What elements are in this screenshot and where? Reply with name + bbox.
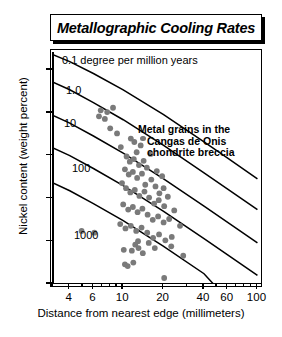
x-tick-label-20: 20 — [148, 291, 178, 303]
data-point — [141, 158, 147, 164]
data-point — [142, 182, 148, 188]
chart-title-box: Metallographic Cooling Rates — [50, 14, 262, 41]
x-minor-tick-5 — [81, 283, 82, 287]
data-point — [130, 204, 136, 210]
data-point — [148, 177, 154, 183]
data-point — [117, 221, 123, 227]
data-point — [140, 250, 146, 256]
data-point — [139, 225, 145, 231]
y-tick-25 — [46, 240, 53, 241]
curve-label-0.1: 0.1 degree per million years — [62, 55, 198, 66]
legend-sample-dot — [140, 136, 146, 142]
data-point — [150, 217, 156, 223]
data-point — [98, 107, 104, 113]
data-point — [177, 223, 183, 229]
data-point — [135, 209, 141, 215]
data-point — [142, 189, 148, 195]
data-point — [128, 223, 134, 229]
annotation-line-1: Metal grains in the — [138, 124, 235, 136]
x-minor-tick-8 — [109, 283, 110, 287]
curve-label-1: 1.0 — [66, 85, 81, 96]
data-point — [145, 212, 151, 218]
data-point — [134, 175, 140, 181]
curve-label-100: 100 — [72, 163, 90, 174]
data-point — [161, 220, 167, 226]
x-minor-tick-3 — [51, 283, 52, 287]
y-axis-line — [52, 52, 54, 284]
data-point — [123, 225, 129, 231]
x-minor-tick-90 — [250, 283, 251, 287]
data-point — [131, 156, 137, 162]
data-point — [125, 263, 131, 269]
data-point — [151, 201, 157, 207]
data-point — [146, 195, 152, 201]
data-point — [180, 253, 186, 259]
data-point — [162, 237, 168, 243]
data-point — [161, 275, 167, 281]
annotation-line-3: chondrite breccia — [138, 147, 235, 159]
data-point — [102, 116, 108, 122]
data-point — [166, 216, 172, 222]
data-point — [130, 169, 136, 175]
x-tick-20 — [162, 283, 163, 289]
data-point — [161, 203, 167, 209]
data-point — [136, 245, 142, 251]
x-tick-40 — [202, 283, 203, 289]
data-point — [168, 243, 174, 249]
data-point — [146, 240, 152, 246]
data-point — [107, 125, 113, 131]
data-point — [104, 109, 110, 115]
data-point — [132, 187, 138, 193]
curve-label-10: 10 — [64, 118, 76, 129]
data-point — [120, 202, 126, 208]
data-point — [169, 234, 175, 240]
x-minor-tick-30 — [186, 283, 187, 287]
x-tick-6 — [92, 283, 93, 289]
x-minor-tick-80 — [243, 283, 244, 287]
data-point — [154, 168, 160, 174]
data-point — [161, 185, 167, 191]
y-tick-45 — [46, 68, 53, 69]
x-tick-label-60: 60 — [212, 291, 242, 303]
x-tick-label-10: 10 — [107, 291, 137, 303]
data-point — [153, 184, 159, 190]
data-point — [144, 230, 150, 236]
x-minor-tick-70 — [235, 283, 236, 287]
data-point — [165, 194, 171, 200]
data-point — [156, 231, 162, 237]
x-axis-title: Distance from nearest edge (millimeters) — [0, 307, 282, 319]
data-point — [171, 208, 177, 214]
x-tick-label-100: 100 — [241, 291, 271, 303]
data-point — [156, 197, 162, 203]
data-point — [156, 190, 162, 196]
data-point — [136, 193, 142, 199]
x-tick-10 — [121, 283, 122, 289]
series-annotation: Metal grains in the Cangas de Onis chond… — [138, 124, 235, 159]
cooling-rate-curve-0.1 — [53, 55, 257, 179]
x-tick-label-6: 6 — [77, 291, 107, 303]
data-point — [118, 144, 124, 150]
data-point — [139, 206, 145, 212]
data-point — [123, 185, 129, 191]
data-point — [144, 165, 150, 171]
data-point — [139, 171, 145, 177]
page-title: Metallographic Cooling Rates — [57, 20, 255, 36]
x-minor-tick-9 — [115, 283, 116, 287]
data-point — [110, 105, 116, 111]
x-tick-100 — [256, 283, 257, 289]
y-tick-30 — [46, 197, 53, 198]
data-point — [122, 166, 128, 172]
data-point — [119, 180, 125, 186]
data-point — [152, 245, 158, 251]
y-tick-40 — [46, 111, 53, 112]
data-point — [155, 214, 161, 220]
x-minor-tick-7 — [101, 283, 102, 287]
x-tick-4 — [68, 283, 69, 289]
x-minor-tick-50 — [215, 283, 216, 287]
x-axis-line — [52, 283, 262, 285]
data-point — [131, 139, 137, 145]
y-axis-title: Nickel content (weight percent) — [17, 71, 29, 241]
data-point — [130, 260, 136, 266]
curve-label-1000: 1000 — [74, 230, 98, 241]
data-point — [96, 113, 102, 119]
